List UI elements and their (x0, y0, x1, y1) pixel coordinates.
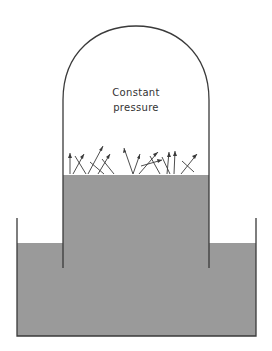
constant-label-line1: Constant (0, 86, 272, 99)
vapor-molecule-arrows (70, 146, 197, 174)
pressure-label-line2: pressure (0, 101, 272, 114)
constant-pressure-diagram (0, 0, 272, 351)
arrowheads (68, 146, 197, 163)
inner-column-liquid (63, 175, 209, 268)
